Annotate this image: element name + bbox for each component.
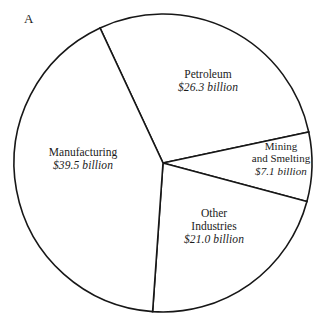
pie-label-other-name-line1: Other [162, 207, 266, 220]
pie-label-other-name-line2: Industries [162, 220, 266, 233]
pie-label-petroleum-value: $26.3 billion [158, 81, 258, 94]
pie-label-petroleum: Petroleum $26.3 billion [158, 68, 258, 94]
pie-label-petroleum-name: Petroleum [158, 68, 258, 81]
pie-label-other-value: $21.0 billion [162, 233, 266, 246]
pie-label-mining-and-smelting: Mining and Smelting $7.1 billion [238, 140, 324, 177]
pie-label-manufacturing-name: Manufacturing [23, 146, 143, 159]
pie-chart-figure: A Petroleum $26.3 billion Manufacturing … [0, 0, 328, 330]
pie-label-mining-value: $7.1 billion [238, 165, 324, 177]
pie-label-mining-name-line2: and Smelting [238, 152, 324, 164]
pie-label-manufacturing-value: $39.5 billion [23, 159, 143, 172]
pie-label-other-industries: Other Industries $21.0 billion [162, 207, 266, 246]
pie-label-manufacturing: Manufacturing $39.5 billion [23, 146, 143, 172]
pie-label-mining-name-line1: Mining [238, 140, 324, 152]
